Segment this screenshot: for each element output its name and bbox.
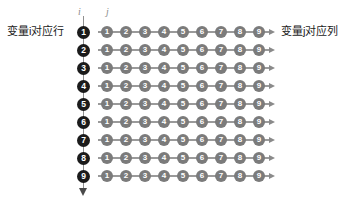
column-index-token: 3	[139, 116, 151, 128]
column-index-token: 7	[215, 134, 227, 146]
column-index-token: 4	[158, 134, 170, 146]
column-index-token: 3	[139, 44, 151, 56]
column-index-token: 9	[253, 62, 265, 74]
column-index-token: 3	[139, 80, 151, 92]
column-index-token: 3	[139, 152, 151, 164]
column-index-token: 1	[101, 80, 113, 92]
column-index-token: 7	[215, 62, 227, 74]
column-index-token: 1	[101, 98, 113, 110]
column-index-token: 8	[234, 80, 246, 92]
column-index-token: 9	[253, 116, 265, 128]
column-index-token: 4	[158, 44, 170, 56]
column-index-token: 3	[139, 62, 151, 74]
column-index-token: 3	[139, 170, 151, 182]
column-index-token: 2	[120, 170, 132, 182]
column-index-token: 9	[253, 44, 265, 56]
column-index-token: 4	[158, 116, 170, 128]
column-index-token: 6	[196, 152, 208, 164]
row-arrow-icon	[269, 83, 275, 89]
row-arrow-icon	[269, 137, 275, 143]
column-index-token: 7	[215, 116, 227, 128]
row-index-token: 8	[77, 152, 90, 165]
column-index-token: 8	[234, 152, 246, 164]
row-index-token: 7	[77, 134, 90, 147]
column-index-token: 8	[234, 116, 246, 128]
column-index-token: 4	[158, 26, 170, 38]
column-index-token: 3	[139, 98, 151, 110]
column-index-token: 6	[196, 44, 208, 56]
column-index-token: 5	[177, 152, 189, 164]
column-index-token: 6	[196, 170, 208, 182]
column-index-token: 1	[101, 62, 113, 74]
column-index-token: 9	[253, 152, 265, 164]
column-index-token: 7	[215, 98, 227, 110]
column-index-token: 5	[177, 134, 189, 146]
column-index-token: 2	[120, 44, 132, 56]
column-index-token: 9	[253, 170, 265, 182]
column-index-token: 9	[253, 26, 265, 38]
axis-label-i: i	[78, 7, 81, 17]
column-index-token: 4	[158, 152, 170, 164]
row-index-token: 2	[77, 44, 90, 57]
row-arrow-icon	[269, 65, 275, 71]
column-index-token: 8	[234, 26, 246, 38]
caption-row-variable: 变量i对应行	[7, 25, 64, 38]
column-index-token: 6	[196, 62, 208, 74]
column-index-token: 5	[177, 98, 189, 110]
column-index-token: 3	[139, 134, 151, 146]
column-index-token: 9	[253, 98, 265, 110]
column-index-token: 1	[101, 134, 113, 146]
column-index-token: 9	[253, 134, 265, 146]
row-index-token: 6	[77, 116, 90, 129]
column-index-token: 3	[139, 26, 151, 38]
column-index-token: 7	[215, 26, 227, 38]
column-index-token: 7	[215, 80, 227, 92]
column-index-token: 2	[120, 98, 132, 110]
column-index-token: 2	[120, 116, 132, 128]
column-index-token: 6	[196, 134, 208, 146]
column-index-token: 6	[196, 26, 208, 38]
column-index-token: 1	[101, 152, 113, 164]
column-index-token: 8	[234, 98, 246, 110]
column-index-token: 5	[177, 80, 189, 92]
column-index-token: 8	[234, 170, 246, 182]
column-index-token: 5	[177, 116, 189, 128]
column-index-token: 2	[120, 80, 132, 92]
row-index-token: 3	[77, 62, 90, 75]
column-index-token: 1	[101, 44, 113, 56]
column-index-token: 7	[215, 44, 227, 56]
row-arrow-icon	[269, 29, 275, 35]
column-index-token: 4	[158, 62, 170, 74]
column-index-token: 1	[101, 26, 113, 38]
column-index-token: 2	[120, 134, 132, 146]
index-grid-diagram: 变量i对应行 变量j对应列 i j 1123456789212345678931…	[0, 0, 347, 209]
column-index-token: 1	[101, 116, 113, 128]
column-index-token: 4	[158, 170, 170, 182]
column-index-token: 8	[234, 134, 246, 146]
i-axis-arrow-icon	[79, 188, 87, 196]
row-arrow-icon	[269, 101, 275, 107]
column-index-token: 5	[177, 62, 189, 74]
column-index-token: 6	[196, 98, 208, 110]
row-arrow-icon	[269, 119, 275, 125]
column-index-token: 9	[253, 80, 265, 92]
column-index-token: 4	[158, 80, 170, 92]
column-index-token: 8	[234, 62, 246, 74]
row-index-token: 5	[77, 98, 90, 111]
row-index-token: 1	[77, 26, 90, 39]
column-index-token: 5	[177, 26, 189, 38]
column-index-token: 2	[120, 26, 132, 38]
column-index-token: 4	[158, 98, 170, 110]
column-index-token: 6	[196, 116, 208, 128]
row-arrow-icon	[269, 173, 275, 179]
column-index-token: 5	[177, 44, 189, 56]
row-index-token: 4	[77, 80, 90, 93]
column-index-token: 2	[120, 152, 132, 164]
column-index-token: 1	[101, 170, 113, 182]
row-arrow-icon	[269, 155, 275, 161]
column-index-token: 8	[234, 44, 246, 56]
axis-label-j: j	[106, 7, 109, 17]
column-index-token: 5	[177, 170, 189, 182]
column-index-token: 7	[215, 152, 227, 164]
column-index-token: 7	[215, 170, 227, 182]
